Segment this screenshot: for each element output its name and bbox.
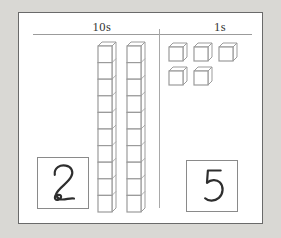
tens-digit xyxy=(47,162,79,204)
tens-answer-box xyxy=(37,157,89,209)
unit-cube xyxy=(194,43,212,61)
unit-cube xyxy=(169,67,187,85)
tens-rod xyxy=(98,42,116,212)
tens-rod xyxy=(127,42,145,212)
tens-rods-group xyxy=(98,42,145,212)
unit-cube xyxy=(169,43,187,61)
unit-cube xyxy=(194,67,212,85)
ones-answer-box xyxy=(186,160,238,212)
place-value-card: 10s 1s xyxy=(18,12,263,224)
ones-digit xyxy=(196,165,228,207)
ones-units-group xyxy=(169,43,237,85)
page: 10s 1s xyxy=(0,0,281,238)
unit-cube xyxy=(219,43,237,61)
